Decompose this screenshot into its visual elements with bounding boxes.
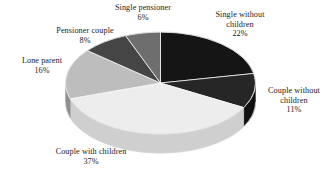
slice-label-percent: 6% — [88, 13, 198, 23]
slice-label-text: Single pensioner — [88, 3, 198, 13]
slice-label-pensioner-couple: Pensioner couple 8% — [32, 26, 138, 45]
slice-label-percent: 16% — [4, 66, 80, 76]
slice-label-single-without-children: Single without children 22% — [196, 10, 284, 39]
slice-label-single-pensioner: Single pensioner 6% — [88, 3, 198, 22]
slice-label-percent: 11% — [252, 105, 335, 115]
slice-label-text-line1: Couple without — [252, 86, 335, 96]
slice-label-text-line1: Single without — [196, 10, 284, 20]
slice-label-text: Couple with children — [26, 147, 156, 157]
slice-label-lone-parent: Lone parent 16% — [4, 56, 80, 75]
slice-label-percent: 37% — [26, 157, 156, 167]
pie-chart: Single pensioner 6% Single without child… — [0, 0, 335, 178]
slice-label-text: Pensioner couple — [32, 26, 138, 36]
slice-label-text-line2: children — [252, 96, 335, 106]
slice-label-text: Lone parent — [4, 56, 80, 66]
slice-label-percent: 22% — [196, 29, 284, 39]
slice-label-couple-without-children: Couple without children 11% — [252, 86, 335, 115]
slice-label-percent: 8% — [32, 36, 138, 46]
slice-label-text-line2: children — [196, 20, 284, 30]
slice-label-couple-with-children: Couple with children 37% — [26, 147, 156, 166]
